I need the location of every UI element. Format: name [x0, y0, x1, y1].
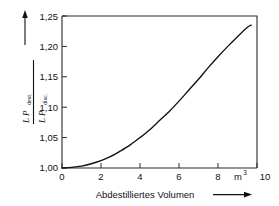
y-axis-label-denominator-main: L P — [37, 110, 47, 124]
y-tick-label-1: 1,05 — [40, 132, 59, 143]
x-tick-label-1: 2 — [98, 171, 103, 182]
x-tick-label-3: 6 — [176, 171, 181, 182]
y-axis-label-denominator-sub: disc. — [41, 93, 48, 105]
y-axis-arrow-icon — [22, 10, 28, 45]
x-tick-label-2: 4 — [137, 171, 142, 182]
axis-lines — [62, 16, 257, 168]
y-tick-label-3: 1,15 — [40, 71, 59, 82]
y-tick-label-4: 1,20 — [40, 41, 59, 52]
x-axis-unit: m 3 — [234, 169, 247, 182]
plot-frame — [62, 16, 257, 168]
x-tick-label-4: 8 — [215, 171, 220, 182]
y-axis-arrow-head — [22, 10, 28, 18]
x-axis-label-text: Abdestilliertes Volumen — [96, 189, 195, 200]
y-tick-label-5: 1,25 — [40, 11, 59, 22]
y-axis-tick-labels: 1,00 1,05 1,10 1,15 1,20 1,25 — [40, 11, 59, 174]
x-axis-unit-base: m — [234, 171, 242, 182]
x-axis-label: Abdestilliertes Volumen — [96, 189, 252, 200]
frame-top-right — [62, 16, 257, 168]
y-axis-label-numerator-main: L P — [21, 110, 31, 124]
x-axis-unit-exponent: 3 — [243, 169, 247, 176]
x-axis-arrow-icon — [213, 192, 252, 198]
y-axis-label-numerator-sub: dest. — [25, 93, 32, 105]
y-axis-ticks — [62, 16, 67, 168]
y-axis-label: L P dest. L P disc. — [21, 60, 48, 124]
data-curve — [62, 25, 251, 168]
x-axis-arrow-head — [244, 192, 252, 198]
y-tick-label-0: 1,00 — [40, 162, 59, 173]
x-tick-label-0: 0 — [59, 171, 64, 182]
chart-figure: 1,00 1,05 1,10 1,15 1,20 1,25 0 2 4 6 8 … — [0, 0, 279, 206]
y-axis-label-numerator: L P dest. — [21, 93, 32, 124]
chart-svg: 1,00 1,05 1,10 1,15 1,20 1,25 0 2 4 6 8 … — [0, 0, 279, 206]
x-tick-label-5: 10 — [260, 171, 271, 182]
